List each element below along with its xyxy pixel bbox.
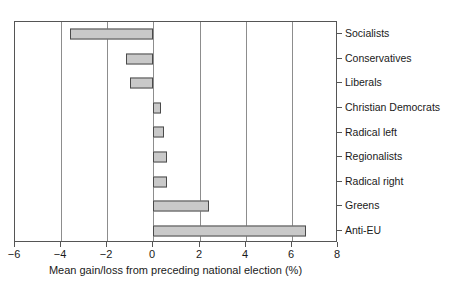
x-tick-mark bbox=[106, 242, 107, 247]
x-tick-mark bbox=[337, 242, 338, 247]
x-tick-mark bbox=[291, 242, 292, 247]
category-label-regionalists: Regionalists bbox=[345, 150, 402, 162]
bar-row bbox=[15, 169, 336, 194]
y-tick-mark bbox=[337, 33, 342, 34]
y-tick-mark bbox=[337, 58, 342, 59]
bars-layer bbox=[15, 22, 336, 241]
bar[interactable] bbox=[153, 127, 163, 138]
x-tick-mark bbox=[60, 242, 61, 247]
category-label-radical-right: Radical right bbox=[345, 175, 403, 187]
y-tick-mark bbox=[337, 205, 342, 206]
bar-row bbox=[15, 22, 336, 47]
bar-row bbox=[15, 47, 336, 72]
x-tick-label: 8 bbox=[317, 248, 357, 261]
x-tick-label: −2 bbox=[86, 248, 126, 261]
category-label-conservatives: Conservatives bbox=[345, 52, 412, 64]
bar[interactable] bbox=[153, 102, 161, 113]
x-tick-label: 0 bbox=[132, 248, 172, 261]
bar-row bbox=[15, 218, 336, 243]
category-label-anti-eu: Anti-EU bbox=[345, 224, 381, 236]
plot-area bbox=[14, 21, 337, 242]
x-tick-label: 2 bbox=[179, 248, 219, 261]
bar[interactable] bbox=[153, 225, 305, 236]
bar-row bbox=[15, 194, 336, 219]
bar[interactable] bbox=[70, 29, 153, 40]
category-label-radical-left: Radical left bbox=[345, 126, 397, 138]
category-label-socialists: Socialists bbox=[345, 27, 389, 39]
bar[interactable] bbox=[130, 78, 153, 89]
y-tick-mark bbox=[337, 132, 342, 133]
y-tick-mark bbox=[337, 107, 342, 108]
bar[interactable] bbox=[126, 53, 154, 64]
x-tick-mark bbox=[14, 242, 15, 247]
x-tick-label: −6 bbox=[0, 248, 34, 261]
x-tick-label: 6 bbox=[271, 248, 311, 261]
bar-row bbox=[15, 96, 336, 121]
bar[interactable] bbox=[153, 152, 167, 163]
category-label-christian-democrats: Christian Democrats bbox=[345, 101, 440, 113]
x-tick-mark bbox=[152, 242, 153, 247]
bar-row bbox=[15, 145, 336, 170]
bar[interactable] bbox=[153, 176, 167, 187]
x-axis-title: Mean gain/loss from preceding national e… bbox=[14, 264, 337, 276]
x-tick-label: −4 bbox=[40, 248, 80, 261]
bar-row bbox=[15, 120, 336, 145]
y-tick-mark bbox=[337, 230, 342, 231]
y-tick-mark bbox=[337, 82, 342, 83]
x-tick-label: 4 bbox=[225, 248, 265, 261]
bar-row bbox=[15, 71, 336, 96]
x-tick-mark bbox=[245, 242, 246, 247]
y-tick-mark bbox=[337, 181, 342, 182]
bar-chart-figure: −6−4−202468 SocialistsConservativesLiber… bbox=[0, 0, 452, 289]
x-tick-mark bbox=[199, 242, 200, 247]
bar[interactable] bbox=[153, 201, 208, 212]
category-label-liberals: Liberals bbox=[345, 76, 382, 88]
y-tick-mark bbox=[337, 156, 342, 157]
category-label-greens: Greens bbox=[345, 199, 379, 211]
